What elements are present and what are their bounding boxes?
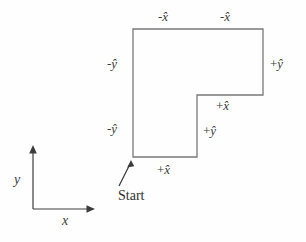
coordinate-axes	[29, 145, 95, 213]
vector-bottom-x: x̂	[164, 162, 170, 177]
l-shaped-path	[133, 29, 263, 157]
path-label-top-left: -x̂	[158, 10, 168, 23]
start-arrow	[119, 160, 134, 186]
vector-left-lower: ŷ	[111, 121, 117, 136]
path-label-top-right: -x̂	[220, 10, 230, 23]
vector-inner-y: ŷ	[210, 123, 216, 138]
figure-canvas: -x̂ -x̂ -ŷ -ŷ +ŷ +x̂ +ŷ +x̂ Start y …	[0, 0, 306, 242]
path-label-left-lower: -ŷ	[107, 122, 117, 135]
vector-left-upper: ŷ	[111, 56, 117, 71]
diagram-svg	[0, 0, 306, 242]
y-axis-label: y	[14, 173, 20, 187]
x-axis-arrowhead	[87, 205, 96, 213]
y-axis-arrowhead	[29, 145, 37, 154]
vector-right: ŷ	[277, 56, 283, 71]
vector-top-right: x̂	[224, 9, 230, 24]
path-label-inner-y: +ŷ	[203, 124, 216, 137]
path-label-left-upper: -ŷ	[107, 57, 117, 70]
start-label: Start	[118, 189, 144, 203]
path-label-inner-x: +x̂	[216, 99, 229, 112]
vector-top-left: x̂	[162, 9, 168, 24]
path-label-bottom-x: +x̂	[157, 163, 170, 176]
x-axis-label: x	[62, 214, 68, 228]
vector-inner-x: x̂	[223, 98, 229, 113]
path-label-right: +ŷ	[270, 57, 283, 70]
